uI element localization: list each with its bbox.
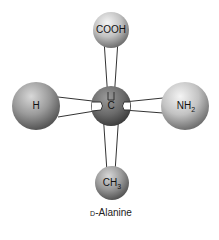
molecule-caption: D-Alanine [90,207,132,218]
label-nh2-sub: 2 [191,106,195,113]
label-ch3-sub: 3 [117,183,121,190]
label-h: H [32,101,39,111]
label-nh2-main: NH [177,100,191,111]
label-ch3: CH3 [103,178,121,190]
label-nh2: NH2 [177,101,195,113]
label-cooh: COOH [96,25,126,35]
caption-name: -Alanine [95,207,132,218]
label-ch3-main: CH [103,177,117,188]
label-c: C [107,101,114,111]
